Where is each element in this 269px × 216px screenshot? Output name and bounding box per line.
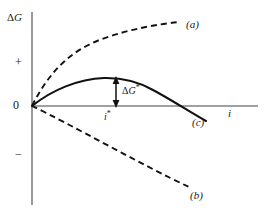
delta-g-star-asterisk: * (136, 83, 140, 92)
y-tick-minus: − (15, 148, 22, 160)
curve-label-c: (c) (192, 117, 204, 128)
i-star-asterisk: * (107, 109, 111, 118)
delta-g-star-var: G (128, 85, 135, 96)
delta-g-star-arrow (113, 76, 120, 108)
curve-label-a: (a) (186, 19, 199, 30)
y-axis-label: ΔG (7, 12, 22, 23)
delta-g-star-label: ΔG* (122, 84, 140, 96)
y-tick-zero: 0 (13, 99, 19, 111)
y-axis-label-var: G (14, 11, 22, 23)
curve-label-b: (b) (190, 190, 203, 201)
x-axis-label: i (228, 108, 231, 119)
y-tick-plus: + (15, 56, 22, 68)
figure-container: ΔG i + 0 − (a) (b) (c) ΔG* i* (0, 0, 269, 216)
curve-c-path (32, 78, 206, 121)
i-star-label: i* (104, 110, 111, 122)
